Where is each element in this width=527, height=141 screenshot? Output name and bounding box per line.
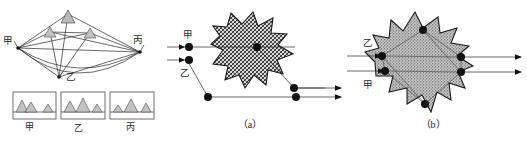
entry-label-jia-b: 甲 — [363, 79, 373, 90]
entry-label-yi-a: 乙 — [180, 67, 190, 78]
panel-a-svg: 甲 乙 （a） — [165, 0, 345, 141]
tick-bing — [140, 45, 144, 52]
profile-box-label-yi: 乙 — [74, 123, 83, 133]
obstacle-area-a — [211, 12, 293, 88]
entry-label-jia-a: 甲 — [183, 29, 193, 40]
incoming-arrows-a — [167, 44, 185, 62]
panel-b-caption: （b） — [421, 119, 446, 130]
sight-line-network — [18, 14, 140, 77]
ground-arc-inner — [18, 48, 140, 68]
panel-b-svg: 乙 甲 （b） — [345, 0, 527, 141]
panel-left-svg: 甲 丙 乙 甲 乙 — [0, 0, 165, 141]
panel-a-caption: （a） — [238, 119, 262, 130]
profile-box-jia: 甲 — [13, 92, 56, 132]
profile-box-label-bing: 丙 — [126, 122, 135, 132]
station-label-bing: 丙 — [133, 34, 143, 45]
station-label-jia: 甲 — [3, 35, 13, 46]
tick-jia — [14, 41, 18, 48]
profile-box-bing: 丙 — [110, 92, 154, 132]
figure-root: 甲 丙 乙 甲 乙 — [0, 0, 527, 141]
profile-box-yi: 乙 — [61, 92, 105, 133]
panel-triangulation-peaks: 甲 丙 乙 甲 乙 — [0, 0, 165, 141]
panel-b-network: 乙 甲 （b） — [345, 0, 527, 141]
profile-box-label-jia: 甲 — [25, 122, 34, 132]
outgoing-arrows-a — [294, 85, 342, 99]
station-label-yi: 乙 — [66, 71, 76, 82]
panel-a-traverse: 甲 乙 （a） — [165, 0, 345, 141]
entry-label-yi-b: 乙 — [363, 37, 373, 48]
